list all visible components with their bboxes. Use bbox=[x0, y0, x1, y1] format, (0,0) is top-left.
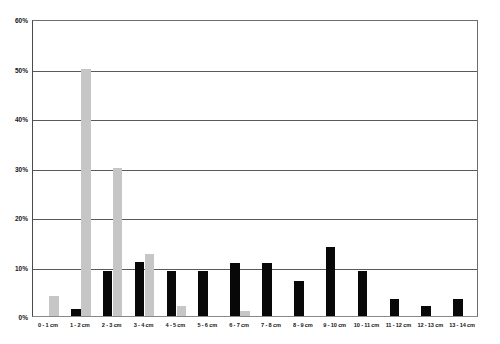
bar-series-black-1 bbox=[71, 309, 81, 316]
bar-series-black-3 bbox=[135, 262, 145, 316]
bar-group bbox=[160, 21, 192, 316]
bar-group bbox=[383, 21, 415, 316]
bar-series-gray-2 bbox=[113, 168, 123, 317]
bar-series-black-6 bbox=[230, 263, 240, 316]
bar-group bbox=[129, 21, 161, 316]
bar-group bbox=[192, 21, 224, 316]
x-tick-label: 13 - 14 cm bbox=[446, 322, 478, 328]
x-axis-labels: 0 - 1 cm1 - 2 cm2 - 3 cm3 - 4 cm4 - 5 cm… bbox=[32, 320, 478, 342]
x-tick-label: 0 - 1 cm bbox=[32, 322, 64, 328]
x-tick-label: 1 - 2 cm bbox=[64, 322, 96, 328]
x-tick-label: 8 - 9 cm bbox=[287, 322, 319, 328]
bar-series-gray-6 bbox=[240, 311, 250, 316]
x-tick-label: 6 - 7 cm bbox=[223, 322, 255, 328]
bar-group bbox=[447, 21, 479, 316]
x-tick-label: 12 - 13 cm bbox=[414, 322, 446, 328]
bar-group bbox=[320, 21, 352, 316]
y-tick-label: 30% bbox=[2, 165, 28, 172]
bar-series-gray-4 bbox=[177, 306, 187, 316]
bar-group bbox=[415, 21, 447, 316]
bar-group bbox=[224, 21, 256, 316]
x-tick-label: 11 - 12 cm bbox=[382, 322, 414, 328]
bar-series-gray-0 bbox=[49, 296, 59, 316]
bar-series-gray-1 bbox=[81, 69, 91, 317]
bar-series-black-5 bbox=[198, 271, 208, 316]
bar-group bbox=[33, 21, 65, 316]
bar-group bbox=[352, 21, 384, 316]
x-tick-label: 2 - 3 cm bbox=[96, 322, 128, 328]
y-tick-label: 60% bbox=[2, 17, 28, 24]
x-tick-label: 4 - 5 cm bbox=[159, 322, 191, 328]
x-tick-label: 10 - 11 cm bbox=[351, 322, 383, 328]
bar-group bbox=[97, 21, 129, 316]
bars-layer bbox=[33, 21, 477, 316]
bar-series-black-12 bbox=[421, 306, 431, 316]
x-tick-label: 7 - 8 cm bbox=[255, 322, 287, 328]
bar-series-black-2 bbox=[103, 271, 113, 316]
y-tick-label: 0% bbox=[2, 314, 28, 321]
bar-series-black-9 bbox=[326, 247, 336, 316]
y-tick-label: 10% bbox=[2, 264, 28, 271]
x-tick-label: 5 - 6 cm bbox=[191, 322, 223, 328]
bar-series-black-11 bbox=[390, 299, 400, 316]
bar-series-gray-3 bbox=[145, 254, 155, 316]
bar-group bbox=[65, 21, 97, 316]
x-tick-label: 3 - 4 cm bbox=[128, 322, 160, 328]
bar-series-black-10 bbox=[358, 271, 368, 316]
x-tick-label: 9 - 10 cm bbox=[319, 322, 351, 328]
y-tick-label: 40% bbox=[2, 116, 28, 123]
bar-series-black-4 bbox=[167, 271, 177, 316]
bar-chart: 0%10%20%30%40%50%60% 0 - 1 cm1 - 2 cm2 -… bbox=[0, 0, 500, 344]
y-tick-label: 50% bbox=[2, 66, 28, 73]
bar-series-black-8 bbox=[294, 281, 304, 316]
plot-area bbox=[32, 20, 478, 317]
bar-series-black-13 bbox=[453, 299, 463, 316]
bar-group bbox=[256, 21, 288, 316]
bar-series-black-7 bbox=[262, 263, 272, 316]
bar-group bbox=[288, 21, 320, 316]
y-tick-label: 20% bbox=[2, 215, 28, 222]
